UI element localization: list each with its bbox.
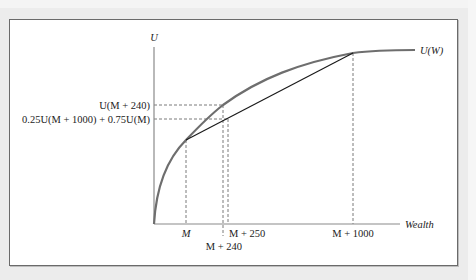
x-axis-label: Wealth <box>405 219 434 230</box>
utility-curve <box>154 50 415 224</box>
utility-diagram: U Wealth U(W) U(M + 240) 0.25U(M + 1000)… <box>0 0 476 280</box>
x-tick-m1000: M + 1000 <box>332 228 374 239</box>
y-axis-label: U <box>150 32 159 43</box>
y-tick-expected-utility: 0.25U(M + 1000) + 0.75U(M) <box>22 114 150 126</box>
x-tick-m250: M + 250 <box>229 228 265 239</box>
dashed-guides <box>154 53 353 236</box>
chord-line <box>186 53 353 140</box>
x-tick-m: M <box>181 228 192 239</box>
y-tick-u-m240: U(M + 240) <box>99 100 150 112</box>
x-tick-m240: M + 240 <box>206 241 242 252</box>
curve-label: U(W) <box>420 45 444 57</box>
